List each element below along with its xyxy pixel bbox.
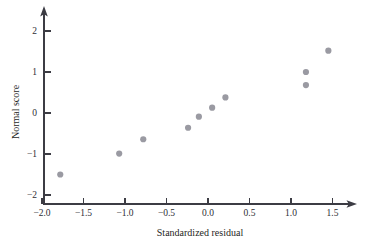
x-tick-label-group: −2.0−1.5−1.0−0.50.00.51.01.5 [33, 208, 338, 218]
x-tick-label: −2.0 [33, 208, 50, 218]
y-axis-title: Normal score [10, 84, 21, 139]
x-tick-label: 1.0 [285, 208, 297, 218]
y-tick-label: −1 [27, 149, 37, 159]
x-tick-label: −0.5 [158, 208, 175, 218]
x-axis-title: Standardized residual [157, 227, 244, 238]
x-tick-label: −1.5 [75, 208, 92, 218]
scatter-plot: −2−1012 −2.0−1.5−1.0−0.50.00.51.01.5 Sta… [0, 0, 365, 250]
x-tick-label: 0.5 [244, 208, 256, 218]
y-tick-label: 1 [32, 67, 37, 77]
y-axis: −2−1012 [27, 6, 51, 205]
y-tick-label-group: −2−1012 [27, 26, 37, 200]
data-point-group [57, 48, 331, 178]
x-tick-group [42, 198, 333, 204]
data-point [196, 114, 202, 120]
data-point [185, 125, 191, 131]
y-tick-label: −2 [27, 190, 37, 200]
data-point [209, 105, 215, 111]
data-point [303, 69, 309, 75]
data-point [303, 82, 309, 88]
data-point [325, 48, 331, 54]
data-point [222, 94, 228, 100]
y-tick-label: 0 [32, 108, 37, 118]
chart-container: −2−1012 −2.0−1.5−1.0−0.50.00.51.01.5 Sta… [0, 0, 365, 250]
y-tick-group [44, 31, 51, 195]
data-point [140, 136, 146, 142]
x-tick-label: −1.0 [116, 208, 133, 218]
y-tick-label: 2 [32, 26, 37, 36]
x-axis: −2.0−1.5−1.0−0.50.00.51.01.5 [33, 198, 357, 218]
data-point [116, 150, 122, 156]
x-tick-label: 0.0 [202, 208, 214, 218]
data-point [57, 171, 63, 177]
x-tick-label: 1.5 [327, 208, 339, 218]
